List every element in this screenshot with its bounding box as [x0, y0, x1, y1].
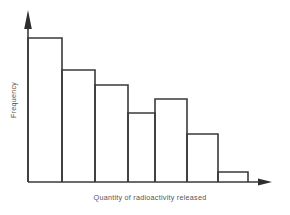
y-axis-arrow-icon [24, 10, 32, 29]
bar-3 [95, 85, 128, 182]
y-axis-label: Frequency [9, 82, 18, 118]
x-axis [28, 178, 272, 185]
histogram-bars [28, 38, 248, 182]
bar-5 [155, 99, 187, 182]
bar-4 [128, 113, 155, 182]
histogram-figure: Quantity of radioactivity released Frequ… [0, 0, 290, 215]
x-axis-arrow-icon [258, 178, 272, 185]
bar-2 [62, 70, 95, 182]
x-axis-label: Quantity of radioactivity released [94, 193, 207, 202]
bar-6 [187, 134, 218, 182]
chart-canvas: Quantity of radioactivity released Frequ… [0, 0, 290, 215]
bar-7 [218, 172, 248, 182]
bar-1 [28, 38, 62, 182]
